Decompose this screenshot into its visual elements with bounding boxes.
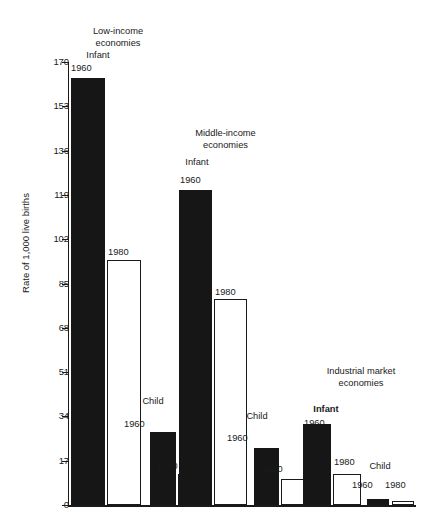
year-label-industrial-market-infant-1980: 1980 xyxy=(334,457,355,468)
series-label-industrial-market-child: Child xyxy=(356,461,404,472)
y-tick-label-170: 170 xyxy=(13,57,69,67)
year-label-middle-income-child-1960: 1960 xyxy=(227,433,248,444)
year-label-middle-income-infant-1980: 1980 xyxy=(215,287,236,298)
group-title-middle-income-line2: economies xyxy=(168,140,283,152)
bar-low-income-infant-1980 xyxy=(107,260,141,505)
bar-industrial-market-infant-1960 xyxy=(303,424,331,505)
year-label-low-income-infant-1960: 1960 xyxy=(71,63,92,74)
year-label-low-income-child-1960: 1960 xyxy=(124,419,145,430)
series-label-middle-income-child: Child xyxy=(232,411,282,422)
y-tick-label-68: 68 xyxy=(13,323,69,333)
bar-industrial-market-child-1980 xyxy=(392,501,414,505)
group-title-industrial-market: Industrial market economies xyxy=(302,366,420,389)
group-title-middle-income-line1: Middle-income xyxy=(168,128,283,140)
x-axis-baseline xyxy=(68,505,416,507)
y-tick-label-136: 136 xyxy=(13,146,69,156)
bar-industrial-market-child-1960 xyxy=(367,499,389,505)
bar-low-income-infant-1960 xyxy=(71,78,105,505)
year-label-middle-income-child-1980: 1980 xyxy=(262,464,283,475)
group-title-middle-income: Middle-income economies xyxy=(168,128,283,151)
group-title-industrial-market-line1: Industrial market xyxy=(302,366,420,378)
y-tick-label-0: 0 xyxy=(13,500,69,510)
y-tick-label-153: 153 xyxy=(13,101,69,111)
y-tick-label-102: 102 xyxy=(13,234,69,244)
year-label-low-income-infant-1980: 1980 xyxy=(108,247,129,258)
y-tick-label-85: 85 xyxy=(13,279,69,289)
group-title-low-income-line1: Low-income xyxy=(68,26,168,38)
group-title-low-income-line2: economies xyxy=(68,38,168,50)
group-title-industrial-market-line2: economies xyxy=(302,378,420,390)
y-tick-label-119: 119 xyxy=(13,190,69,200)
series-label-middle-income-infant: Infant xyxy=(168,157,226,168)
year-label-middle-income-infant-1960: 1960 xyxy=(180,175,201,186)
bar-middle-income-infant-1960 xyxy=(179,190,212,505)
year-label-low-income-child-1980: 1980 xyxy=(157,461,178,472)
y-tick-label-34: 34 xyxy=(13,411,69,421)
y-tick-label-51: 51 xyxy=(13,367,69,377)
series-label-low-income-infant: Infant xyxy=(68,50,128,61)
y-tick-label-17: 17 xyxy=(13,456,69,466)
bar-middle-income-infant-1980 xyxy=(214,299,247,505)
year-label-industrial-market-child-1980: 1980 xyxy=(385,480,406,491)
mortality-rate-bar-chart: Rate of 1,000 live births 170 153 136 11… xyxy=(0,0,423,528)
year-label-industrial-market-child-1960: 1960 xyxy=(352,480,373,491)
series-label-low-income-child: Child xyxy=(128,396,178,407)
group-title-low-income: Low-income economies xyxy=(68,26,168,49)
bar-middle-income-child-1960 xyxy=(254,448,279,505)
series-label-industrial-market-infant: Infant xyxy=(298,404,354,415)
